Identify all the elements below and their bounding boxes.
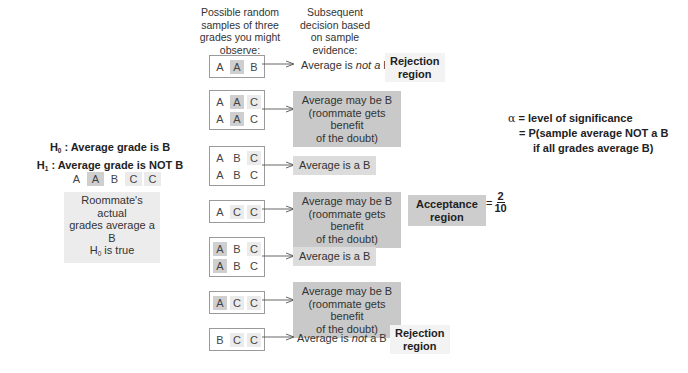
- grade-letter: A: [230, 95, 244, 109]
- sample-box: A C C: [209, 291, 265, 314]
- grade-letter: B: [230, 242, 244, 256]
- grade-letter: B: [230, 151, 244, 165]
- region-line: Acceptance: [416, 198, 478, 211]
- grade-letter: C: [247, 151, 261, 165]
- grade-letter: B: [213, 333, 227, 347]
- actual-grades: A A B C C: [68, 172, 163, 186]
- arrow-right-icon: [262, 295, 296, 305]
- grade-letter: C: [144, 172, 161, 186]
- grade-letter: A: [213, 259, 227, 273]
- alpha-definition-line3: if all grades average B): [533, 141, 653, 155]
- grade-letter: A: [213, 112, 227, 126]
- truth-line: grades average a B: [68, 219, 156, 244]
- decision-line: Average may be B: [299, 94, 395, 107]
- decision-line: (roommate gets benefit: [299, 208, 395, 233]
- decision-not-b: Average is not a B: [293, 330, 391, 347]
- grade-letter: A: [213, 242, 227, 256]
- arrow-right-icon: [262, 251, 296, 261]
- region-line: region: [416, 211, 478, 224]
- grade-letter: A: [230, 60, 244, 74]
- arrow-right-icon: [262, 332, 296, 342]
- sample-box: B C C: [209, 328, 265, 351]
- decision-line: of the doubt): [299, 132, 395, 145]
- sample-box: A C C: [209, 200, 265, 223]
- rejection-region-label: Rejection region: [385, 53, 445, 82]
- grade-letter: C: [247, 205, 261, 219]
- grade-letter: C: [247, 168, 261, 182]
- grade-letter: C: [125, 172, 142, 186]
- decision-line: Average may be B: [299, 285, 395, 298]
- grade-letter: C: [247, 296, 261, 310]
- arrow-right-icon: [262, 160, 296, 170]
- region-line: region: [395, 340, 445, 353]
- header-line: on sample: [295, 31, 375, 44]
- region-line: region: [390, 68, 440, 81]
- equals-sign: =: [486, 197, 492, 209]
- decision-benefit-of-doubt: Average may be B (roommate gets benefit …: [293, 91, 401, 147]
- grade-letter: C: [230, 205, 244, 219]
- truth-statement-box: Roommate's actual grades average a B H0 …: [64, 192, 160, 263]
- arrow-right-icon: [262, 104, 296, 114]
- null-hypothesis: H0 : Average grade is B: [30, 140, 190, 158]
- region-line: Rejection: [395, 327, 445, 340]
- grade-letter: A: [87, 172, 104, 186]
- grade-letter: C: [247, 112, 261, 126]
- decision-line: Average may be B: [299, 195, 395, 208]
- grade-letter: A: [230, 112, 244, 126]
- grade-letter: C: [247, 242, 261, 256]
- grade-letter: C: [247, 333, 261, 347]
- grade-letter: A: [68, 172, 85, 186]
- decision-column-header: Subsequent decision based on sample evid…: [295, 6, 375, 56]
- samples-column-header: Possible random samples of three grades …: [196, 6, 284, 56]
- header-line: evidence:: [295, 44, 375, 57]
- rejection-region-label: Rejection region: [390, 325, 450, 354]
- region-line: Rejection: [390, 55, 440, 68]
- sample-box: A A B: [209, 55, 265, 78]
- grade-letter: A: [213, 205, 227, 219]
- header-line: decision based: [295, 19, 375, 32]
- header-line: Subsequent: [295, 6, 375, 19]
- header-line: Possible random: [196, 6, 284, 19]
- decision-benefit-of-doubt: Average may be B (roommate gets benefit …: [293, 192, 401, 248]
- grade-letter: B: [106, 172, 123, 186]
- decision-not-b: Average is not a B: [297, 57, 395, 74]
- grade-letter: B: [230, 168, 244, 182]
- grade-letter: C: [230, 333, 244, 347]
- sample-box: A A C A A C: [209, 90, 265, 130]
- acceptance-region-label: Acceptance region: [408, 195, 486, 226]
- truth-line: H0 is true: [68, 244, 156, 261]
- arrow-right-icon: [262, 204, 296, 214]
- alpha-definition-line1: α = level of significance: [508, 111, 633, 126]
- hypotheses-panel: H0 : Average grade is B H1 : Average gra…: [30, 140, 190, 176]
- truth-line: Roommate's actual: [68, 194, 156, 219]
- alpha-definition-line2: = P(sample average NOT a B: [519, 126, 668, 140]
- sample-box: A B C A B C: [209, 146, 265, 186]
- fraction-denominator: 10: [494, 203, 506, 214]
- grade-letter: A: [213, 296, 227, 310]
- grade-letter: B: [230, 259, 244, 273]
- header-line: samples of three: [196, 19, 284, 32]
- grade-letter: B: [247, 60, 261, 74]
- grade-letter: A: [213, 151, 227, 165]
- grade-letter: A: [213, 95, 227, 109]
- arrow-right-icon: [262, 59, 296, 69]
- header-line: grades you might: [196, 31, 284, 44]
- grade-letter: C: [230, 296, 244, 310]
- decision-is-b: Average is a B: [293, 156, 376, 175]
- grade-letter: C: [247, 259, 261, 273]
- decision-is-b: Average is a B: [293, 247, 376, 266]
- decision-line: (roommate gets benefit: [299, 298, 395, 323]
- grade-letter: C: [247, 95, 261, 109]
- decision-line: of the doubt): [299, 233, 395, 246]
- grade-letter: A: [213, 168, 227, 182]
- decision-line: (roommate gets benefit: [299, 107, 395, 132]
- alpha-text: = level of significance: [515, 112, 632, 124]
- grade-letter: A: [213, 60, 227, 74]
- alpha-fraction: = 2 10: [486, 191, 507, 214]
- sample-box: A B C A B C: [209, 237, 265, 277]
